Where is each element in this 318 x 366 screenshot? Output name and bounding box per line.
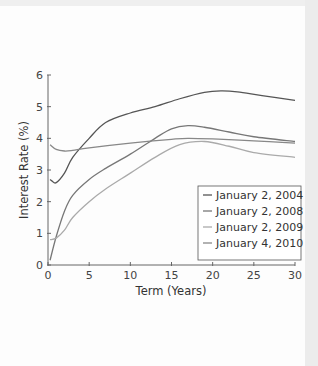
x-tick-label: 15 [165,269,179,282]
legend-label: January 2, 2008 [215,205,303,218]
legend-label: January 2, 2004 [215,189,303,202]
x-tick-label: 5 [86,269,93,282]
legend: January 2, 2004January 2, 2008January 2,… [198,186,303,260]
legend-label: January 2, 2009 [215,221,303,234]
y-tick-label: 4 [36,132,43,145]
x-tick-label: 30 [288,269,302,282]
y-tick-label: 1 [36,227,43,240]
y-axis-title: Interest Rate (%) [17,121,31,219]
legend-label: January 4, 2010 [215,237,303,250]
line-chart: 0123456051015202530 January 2, 2004Janua… [0,0,318,366]
y-tick-label: 2 [36,196,43,209]
y-tick-label: 0 [36,259,43,272]
y-tick-label: 6 [36,69,43,82]
x-tick-label: 10 [123,269,137,282]
y-tick-label: 3 [36,164,43,177]
x-tick-label: 25 [247,269,261,282]
y-tick-label: 5 [36,101,43,114]
x-axis-title: Term (Years) [135,284,207,298]
x-tick-label: 0 [45,269,52,282]
x-tick-label: 20 [206,269,220,282]
